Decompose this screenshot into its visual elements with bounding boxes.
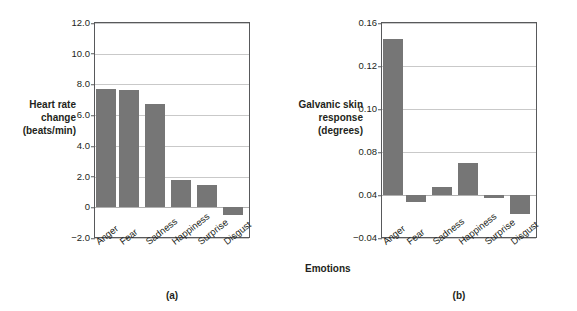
y-axis-tick-label: 12.0 [72,18,91,28]
y-axis-tick-label: 0.12 [359,61,378,71]
y-axis-tick-label: 0.08 [359,147,378,157]
panel-b-category-labels: AngerFearSadnessHappinessSurpriseDisgust [381,239,537,289]
y-axis-tick-label: 0 [85,203,90,213]
panel-b-plot-area: 0.160.120.100.080.04−0.04 [381,22,537,238]
bar-sadness [145,104,165,207]
panel-b-caption: (b) [381,290,537,301]
panel-a-plot-area: 12.010.08.06.04.02.00−2.0 [94,22,250,238]
figure-emotions-physiology: Heart rate change (beats/min) 12.010.08.… [0,0,577,311]
bar-happiness [458,163,478,195]
y-axis-tick-label: 0.10 [359,104,378,114]
bar-surprise [197,185,217,207]
bar-fear [119,90,139,207]
bar-disgust [510,195,530,214]
y-axis-tick-label: 2.0 [77,172,90,182]
y-axis-tick-label: 0.16 [359,18,378,28]
panel-b-x-axis-title: Emotions [305,263,351,274]
panel-a-bars [95,23,249,237]
panel-a-heart-rate: Heart rate change (beats/min) 12.010.08.… [0,0,290,311]
bar-happiness [171,180,191,208]
bar-anger [383,39,403,195]
bar-sadness [432,187,452,195]
y-axis-tick-label: −2.0 [71,233,90,243]
bar-disgust [223,207,243,215]
y-axis-tick-label: −0.04 [353,233,377,243]
bar-surprise [484,195,504,198]
bar-anger [96,89,116,207]
y-axis-tick-label: 0.04 [359,190,378,200]
bar-fear [406,195,426,202]
panel-b-y-axis-title: Galvanic skin response (degrees) [287,98,363,137]
y-axis-tick-label: 4.0 [77,141,90,151]
panel-a-caption: (a) [94,290,250,301]
panel-b-bars [382,23,536,237]
y-axis-tick-label: 8.0 [77,80,90,90]
y-axis-tick-label: 10.0 [72,49,91,59]
panel-a-y-axis-title: Heart rate change (beats/min) [2,98,76,137]
panel-b-galvanic-skin-response: Galvanic skin response (degrees) 0.160.1… [287,0,577,311]
y-axis-tick-label: 6.0 [77,110,90,120]
panel-a-category-labels: AngerFearSadnessHappinessSurpriseDisgust [94,239,250,289]
